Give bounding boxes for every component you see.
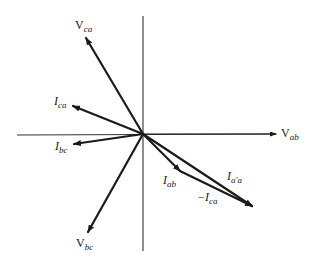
label-sub: bc — [85, 242, 94, 252]
label-sub: ca — [209, 196, 218, 206]
phasor-i-ca — [73, 106, 143, 134]
label-i-ab: Iab — [163, 174, 176, 189]
label-sub: ab — [167, 179, 176, 189]
label-sub: a'a — [231, 175, 242, 185]
label-sub: ab — [290, 132, 299, 142]
phasor-v-bc — [88, 134, 143, 232]
phasor-i-bc — [74, 134, 143, 144]
phasor-diagram — [0, 0, 312, 266]
label-main: V — [75, 18, 84, 32]
label-sub: ca — [58, 100, 67, 110]
label-v-ca: Vca — [75, 19, 92, 34]
label-sub: bc — [59, 145, 68, 155]
phasor-i-ab — [143, 134, 180, 171]
label-i-bc: Ibc — [55, 140, 68, 155]
label-i-ca: Ica — [54, 95, 67, 110]
label-v-bc: Vbc — [76, 237, 93, 252]
label-sub: ca — [84, 24, 93, 34]
label-i-aa: Ia'a — [227, 170, 242, 185]
label-main: V — [281, 126, 290, 140]
label-main: −I — [197, 190, 209, 204]
label-main: V — [76, 236, 85, 250]
label-neg-i-ca: −Ica — [197, 191, 218, 206]
label-v-ab: Vab — [281, 127, 299, 142]
phasor-v-ca — [86, 38, 143, 134]
